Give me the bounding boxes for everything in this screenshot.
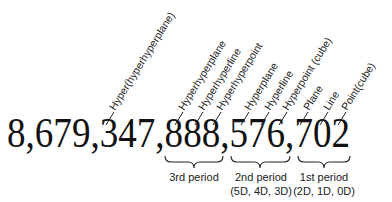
label-point-cube: Point(cube)	[338, 60, 377, 125]
large-number: 8,679,347,888,576,702	[7, 109, 350, 156]
label-hyper-hyperhyperplane: Hyper(hyperhyperplane)	[106, 10, 177, 125]
place-value-diagram: 8,679,347,888,576,702 Hyper(hyperhyperpl…	[0, 0, 392, 202]
brace-2nd-period	[231, 156, 290, 168]
label-text: Hyper(hyperhyperplane)	[107, 10, 177, 112]
period-3rd-title: 3rd period	[169, 171, 219, 183]
period-2nd-subtitle: (5D, 4D, 3D)	[230, 185, 292, 197]
brace-3rd-period	[165, 156, 223, 168]
period-2nd-title: 2nd period	[235, 171, 287, 183]
brace-1st-period	[298, 156, 350, 168]
period-1st-title: 1st period	[300, 171, 348, 183]
label-text: Point(cube)	[339, 60, 378, 112]
period-1st-subtitle: (2D, 1D, 0D)	[293, 185, 355, 197]
